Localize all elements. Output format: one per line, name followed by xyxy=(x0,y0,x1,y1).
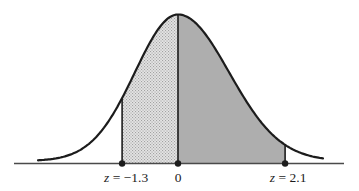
shaded-region-left-stipple xyxy=(122,15,178,164)
axis-point-zero xyxy=(175,160,181,166)
axis-point-z-neg-1-3 xyxy=(119,160,125,166)
axis-point-z-2-1 xyxy=(282,160,288,166)
normal-curve-figure: z= −1.3 0 z= 2.1 xyxy=(0,0,359,191)
normal-curve-canvas: z= −1.3 0 z= 2.1 xyxy=(0,0,359,191)
label-zero: 0 xyxy=(175,170,182,185)
shaded-region-right-gray xyxy=(178,15,285,164)
label-z-neg-1-3: z= −1.3 xyxy=(103,170,148,185)
label-z-2-1: z= 2.1 xyxy=(269,170,307,185)
